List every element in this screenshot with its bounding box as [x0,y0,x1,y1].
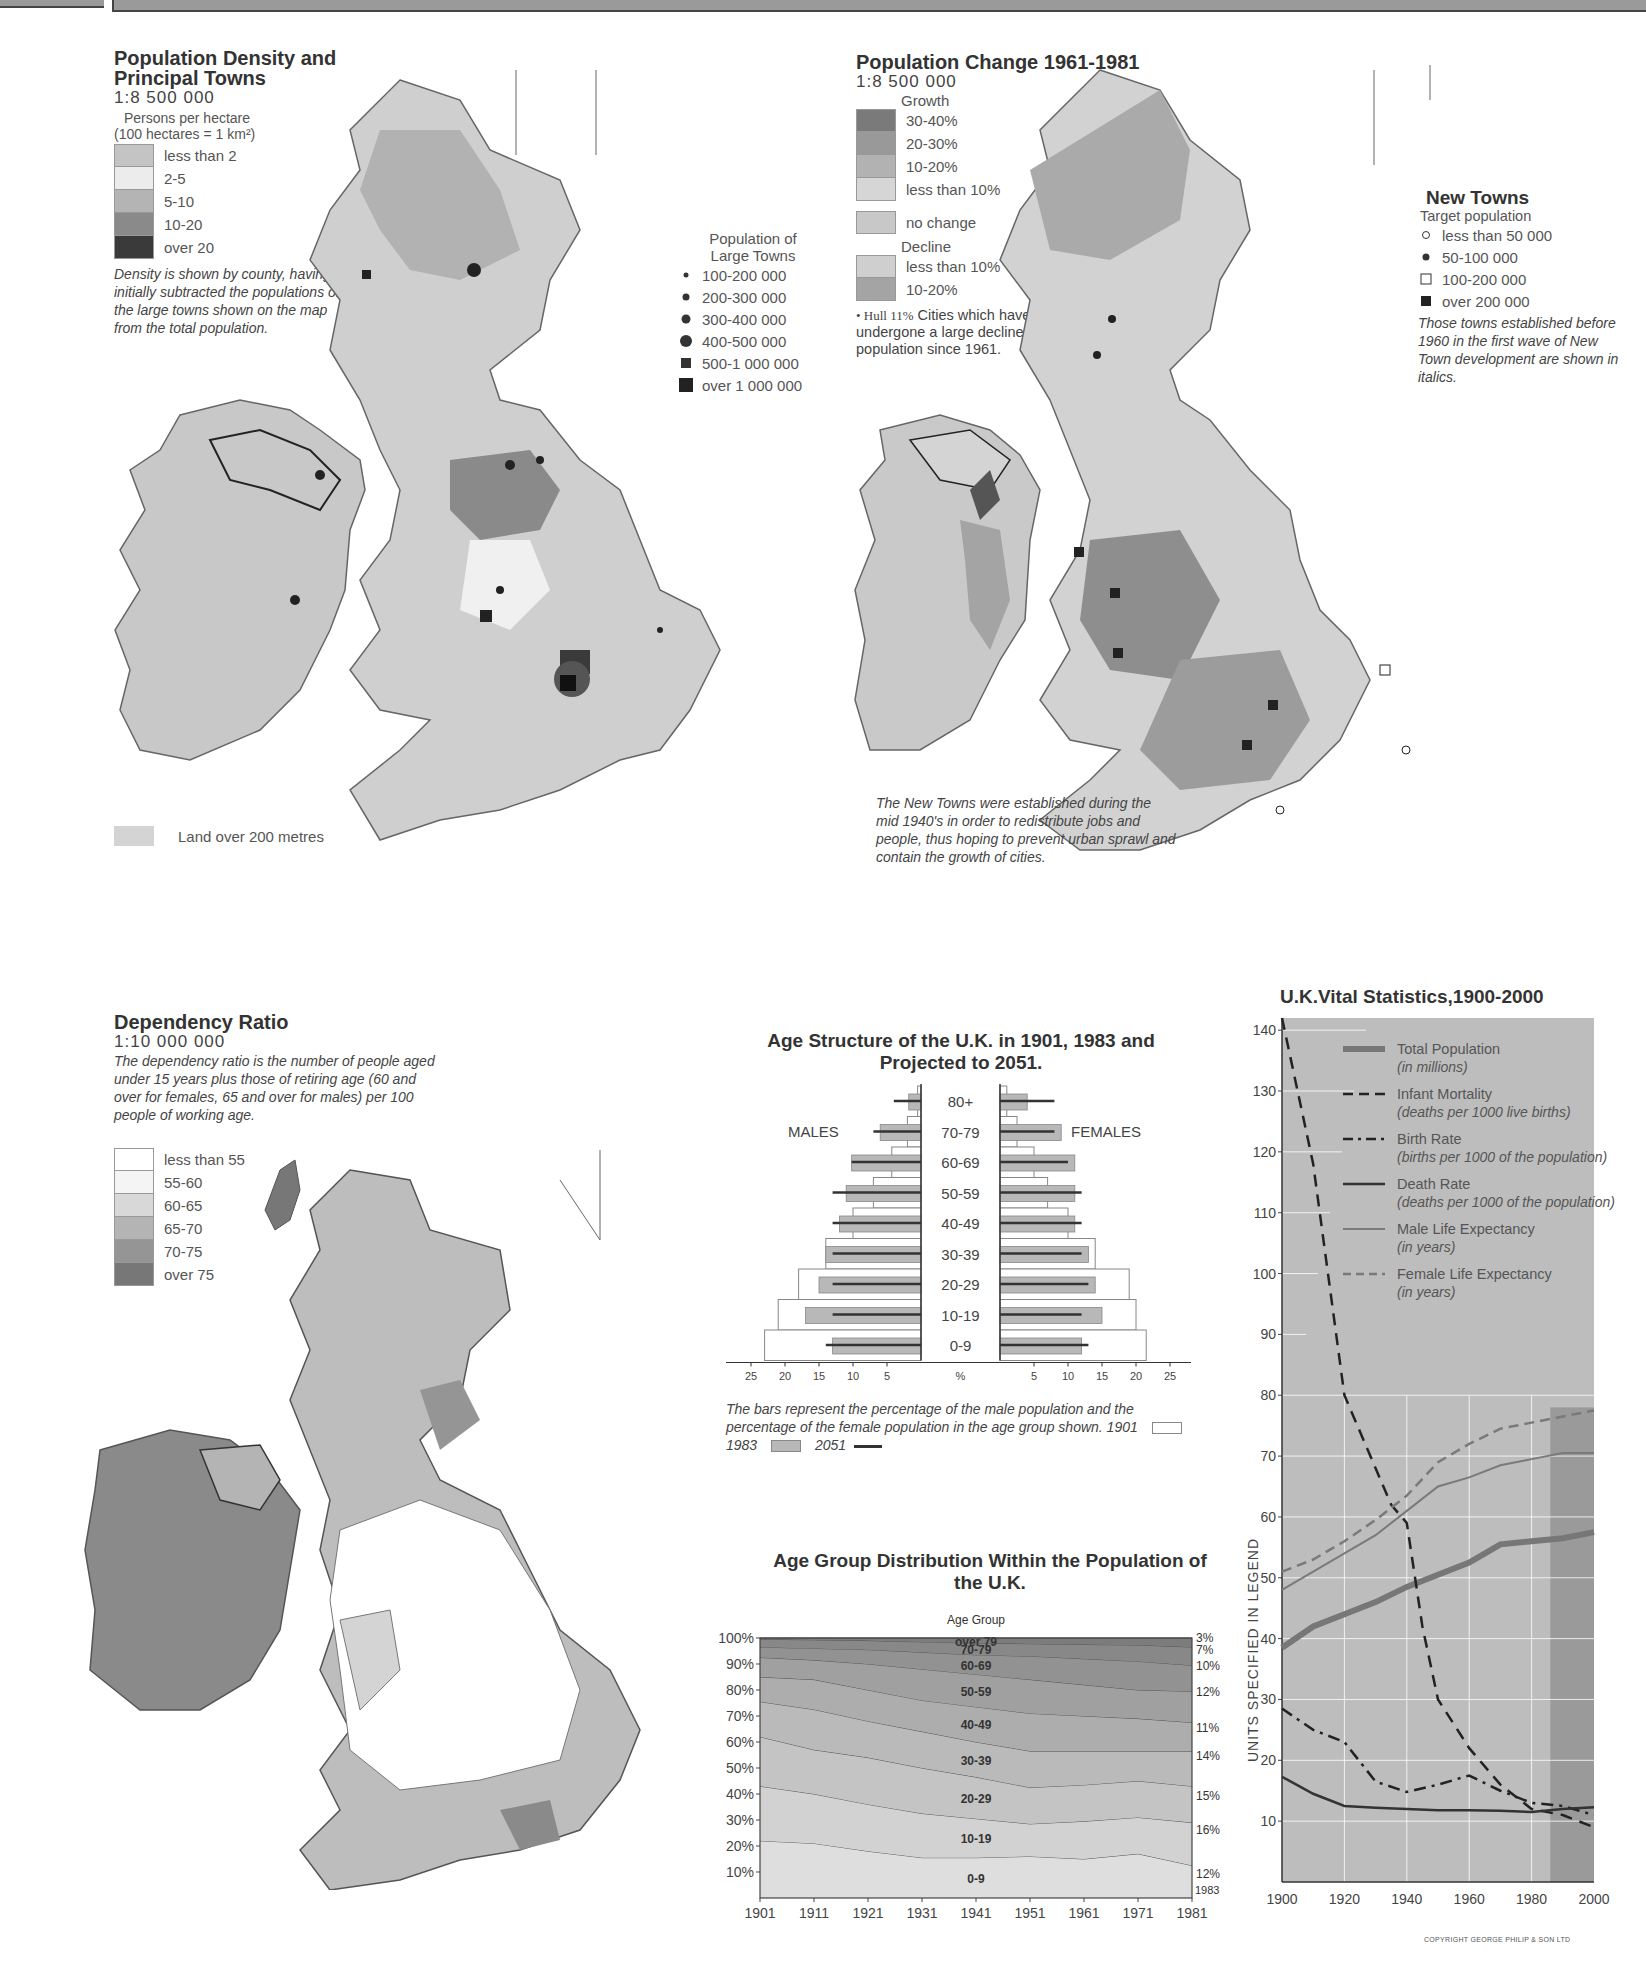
dot-medium-icon [678,289,694,305]
svg-text:10-19: 10-19 [941,1307,979,1324]
towns-legend-label: 100-200 000 [702,267,786,284]
svg-text:0-9: 0-9 [950,1337,972,1354]
square-medium-icon [678,355,694,371]
new-towns-title: New Towns [1418,188,1646,208]
svg-text:70-79: 70-79 [941,1124,979,1141]
svg-text:30-39: 30-39 [941,1246,979,1263]
svg-text:60-69: 60-69 [941,1154,979,1171]
svg-text:MALES: MALES [788,1123,839,1140]
svg-text:120: 120 [1253,1144,1277,1160]
towns-legend-item: 400-500 000 [678,330,828,352]
age-distribution-plot: 0-910-1920-2930-3940-4950-5960-6970-79ov… [700,1598,1220,1928]
svg-text:12%: 12% [1196,1685,1220,1699]
age-structure-plot: 80+70-7960-6950-5940-4930-3920-2910-190-… [726,1082,1196,1402]
svg-text:15%: 15% [1196,1789,1220,1803]
svg-text:1900: 1900 [1266,1891,1297,1907]
svg-text:50: 50 [1260,1570,1276,1586]
svg-text:over 79: over 79 [955,1635,997,1649]
svg-text:(in years): (in years) [1397,1239,1455,1255]
new-towns-legend-item: less than 50 000 [1418,224,1646,246]
svg-text:80%: 80% [726,1682,754,1698]
square-filled-icon [1418,293,1434,309]
svg-text:40-49: 40-49 [961,1718,992,1732]
svg-text:5: 5 [1031,1370,1037,1382]
svg-text:60%: 60% [726,1734,754,1750]
svg-text:50-59: 50-59 [961,1685,992,1699]
svg-text:100%: 100% [718,1630,754,1646]
svg-text:1921: 1921 [852,1905,883,1921]
new-towns-list: less than 50 00050-100 000100-200 000ove… [1418,224,1646,312]
svg-text:11%: 11% [1196,1721,1219,1735]
dependency-map [80,1150,740,1890]
svg-text:40: 40 [1260,1631,1276,1647]
towns-legend-title-2: Large Towns [678,247,828,264]
dependency-title: Dependency Ratio [114,1012,454,1032]
svg-text:25: 25 [1164,1370,1176,1382]
towns-legend: Population of Large Towns 100-200 000200… [678,230,828,396]
new-towns-legend-item: 50-100 000 [1418,246,1646,268]
new-towns-note: Those towns established before 1960 in t… [1418,314,1623,386]
circle-filled-icon [1418,249,1434,265]
svg-text:%: % [956,1370,966,1382]
svg-text:Female Life Expectancy: Female Life Expectancy [1397,1266,1552,1282]
towns-legend-title-1: Population of [678,230,828,247]
svg-text:Age Group: Age Group [947,1613,1005,1627]
svg-text:(in millions): (in millions) [1397,1059,1468,1075]
svg-text:7%: 7% [1196,1643,1214,1657]
new-towns-legend-item: over 200 000 [1418,290,1646,312]
svg-text:1961: 1961 [1068,1905,1099,1921]
svg-text:1960: 1960 [1454,1891,1485,1907]
vital-statistics-plot: 1020304050607080901001101201301401900192… [1240,1008,1646,1948]
svg-text:1920: 1920 [1329,1891,1360,1907]
svg-text:1971: 1971 [1122,1905,1153,1921]
svg-text:0-9: 0-9 [967,1872,985,1886]
svg-text:10: 10 [1062,1370,1074,1382]
square-open-icon [1418,271,1434,287]
dot-xlarge-icon [678,333,694,349]
svg-text:1981: 1981 [1176,1905,1207,1921]
svg-text:20: 20 [779,1370,791,1382]
towns-legend-item: 500-1 000 000 [678,352,828,374]
svg-text:(deaths per 1000 of the popula: (deaths per 1000 of the population) [1397,1194,1615,1210]
new-towns-legend-label: less than 50 000 [1442,227,1552,244]
svg-text:40%: 40% [726,1786,754,1802]
new-towns-subtitle: Target population [1418,208,1646,224]
age-distribution-title: Age Group Distribution Within the Popula… [700,1550,1220,1594]
svg-text:50-59: 50-59 [941,1185,979,1202]
svg-text:70: 70 [1260,1448,1276,1464]
age-structure-chart: Age Structure of the U.K. in 1901, 1983 … [726,1030,1196,1454]
new-towns-legend-item: 100-200 000 [1418,268,1646,290]
svg-text:90%: 90% [726,1656,754,1672]
dot-small-icon [678,267,694,283]
svg-text:15: 15 [1096,1370,1108,1382]
svg-text:30-39: 30-39 [961,1754,992,1768]
svg-text:Total Population: Total Population [1397,1041,1500,1057]
legend-2051: 2051 [815,1437,882,1453]
svg-text:UNITS SPECIFIED IN LEGEND: UNITS SPECIFIED IN LEGEND [1245,1538,1261,1762]
svg-text:Birth Rate: Birth Rate [1397,1131,1461,1147]
svg-text:Death Rate: Death Rate [1397,1176,1470,1192]
towns-legend-item: 200-300 000 [678,286,828,308]
svg-text:130: 130 [1253,1083,1277,1099]
svg-text:(in years): (in years) [1397,1284,1455,1300]
square-large-icon [678,377,694,393]
svg-text:80+: 80+ [948,1093,974,1110]
svg-text:1931: 1931 [906,1905,937,1921]
circle-open-icon [1418,227,1434,243]
svg-text:1941: 1941 [960,1905,991,1921]
change-map [850,60,1646,900]
svg-text:FEMALES: FEMALES [1071,1123,1141,1140]
header-bar-left [0,0,104,8]
vital-statistics-chart: U.K.Vital Statistics,1900-2000 102030405… [1240,986,1646,1952]
towns-legend-item: 100-200 000 [678,264,828,286]
towns-legend-label: 500-1 000 000 [702,355,799,372]
land-swatch [114,826,154,846]
new-towns-bottom-note: The New Towns were established during th… [876,794,1176,866]
new-towns-legend-label: 100-200 000 [1442,271,1526,288]
svg-text:Male Life Expectancy: Male Life Expectancy [1397,1221,1536,1237]
svg-text:10: 10 [1260,1813,1276,1829]
svg-text:10%: 10% [1196,1659,1220,1673]
dependency-note: The dependency ratio is the number of pe… [114,1052,444,1124]
land-legend-label: Land over 200 metres [178,828,324,845]
svg-text:(deaths per 1000 live births): (deaths per 1000 live births) [1397,1104,1571,1120]
